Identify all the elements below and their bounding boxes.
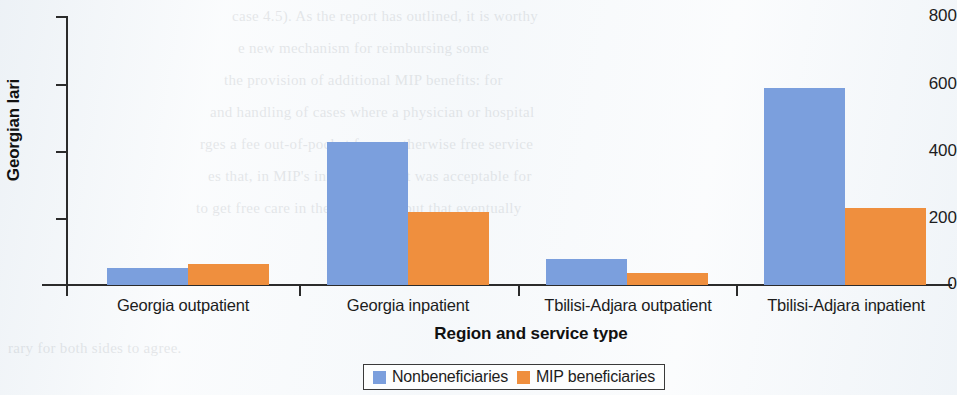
bar-mip-georgia-inpatient — [408, 212, 489, 285]
y-tick-400 — [56, 151, 67, 153]
bleed-line: e new mechanism for reimbursing some — [238, 36, 489, 61]
y-tick-label-600: 600 — [909, 74, 957, 94]
legend-item-nonbeneficiaries: Nonbeneficiaries — [373, 368, 508, 386]
x-axis-tick — [518, 286, 520, 296]
legend-swatch-icon — [517, 371, 530, 384]
bar-nonbeneficiaries-tbilisi-adjara-outpatient — [546, 259, 627, 285]
y-tick-600 — [56, 84, 67, 86]
bleed-line: case 4.5). As the report has outlined, i… — [232, 4, 538, 29]
x-axis-label-tbilisi-adjara-inpatient: Tbilisi-Adjara inpatient — [736, 296, 956, 315]
x-axis-label-georgia-outpatient: Georgia outpatient — [78, 296, 288, 315]
legend-label-nonbeneficiaries: Nonbeneficiaries — [392, 368, 508, 386]
y-tick-label-400: 400 — [909, 141, 957, 161]
bleed-line: the provision of additional MIP benefits… — [224, 68, 503, 93]
bar-mip-tbilisi-adjara-inpatient — [845, 208, 926, 285]
bar-mip-georgia-outpatient — [188, 264, 269, 285]
x-axis-tick — [299, 286, 301, 296]
y-tick-200 — [56, 218, 67, 220]
legend-label-mip-beneficiaries: MIP beneficiaries — [536, 368, 655, 386]
x-axis-title-text: Region and service type — [329, 324, 627, 343]
y-tick-label-800: 800 — [909, 6, 957, 26]
chart-legend: Nonbeneficiaries MIP beneficiaries — [363, 364, 665, 390]
x-axis-tick — [66, 286, 68, 296]
x-axis-label-tbilisi-adjara-outpatient: Tbilisi-Adjara outpatient — [518, 296, 738, 315]
legend-swatch-icon — [373, 371, 386, 384]
x-axis-title: Region and service type — [0, 324, 957, 344]
x-axis-tick — [736, 286, 738, 296]
legend-item-mip-beneficiaries: MIP beneficiaries — [517, 368, 655, 386]
y-tick-800 — [56, 16, 67, 18]
x-axis-label-georgia-inpatient: Georgia inpatient — [303, 296, 513, 315]
chart-figure: case 4.5). As the report has outlined, i… — [0, 0, 957, 395]
bar-nonbeneficiaries-georgia-outpatient — [107, 268, 188, 285]
bar-mip-tbilisi-adjara-outpatient — [627, 273, 708, 285]
bar-nonbeneficiaries-tbilisi-adjara-inpatient — [764, 88, 845, 285]
bleed-line: and handling of cases where a physician … — [210, 100, 534, 125]
y-axis-title-text: Georgian lari — [4, 45, 24, 215]
bar-nonbeneficiaries-georgia-inpatient — [327, 142, 408, 285]
